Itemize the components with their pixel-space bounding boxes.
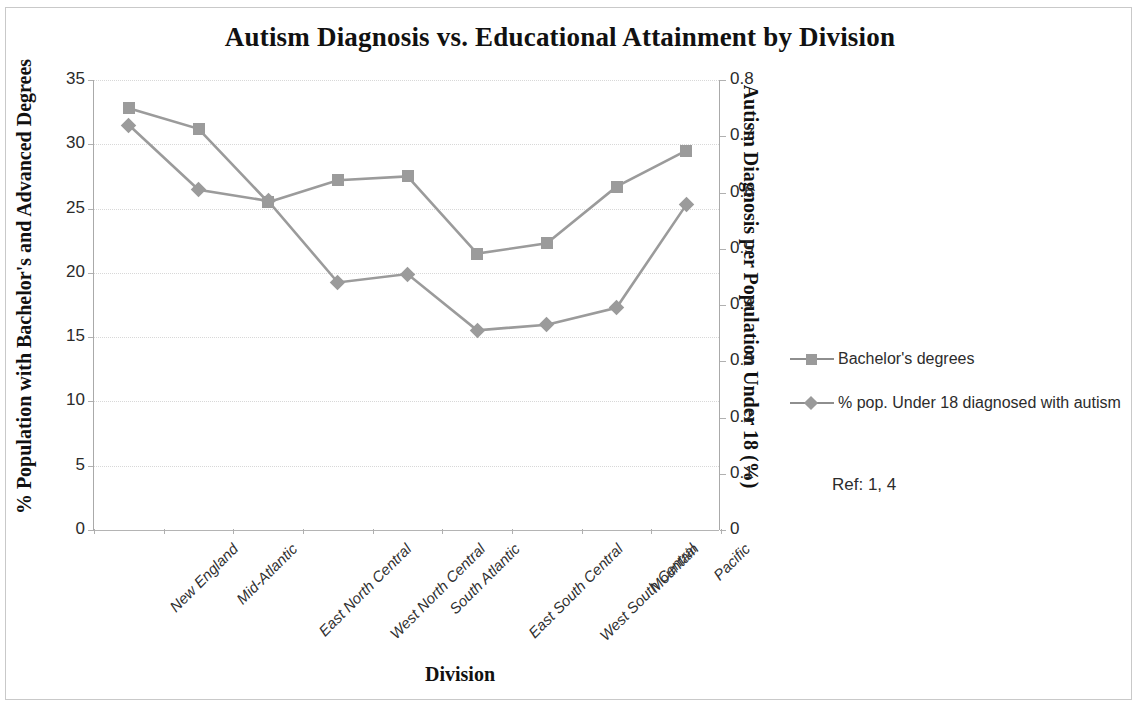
reference-note: Ref: 1, 4 — [832, 475, 896, 495]
x-axis-tick — [721, 529, 722, 534]
left-axis-tick-label: 5 — [35, 455, 85, 475]
data-point-square — [611, 181, 623, 193]
gridline — [94, 530, 719, 531]
legend-item-bachelors[interactable]: Bachelor's degrees — [790, 350, 1135, 368]
data-point-square — [332, 174, 344, 186]
left-axis-tick-label: 15 — [35, 326, 85, 346]
right-axis-tick-label: 0.8 — [730, 69, 786, 89]
series-line-1 — [129, 125, 686, 330]
legend-label-autism: % pop. Under 18 diagnosed with autism — [838, 394, 1121, 412]
data-point-square — [193, 123, 205, 135]
left-axis-tick-label: 30 — [35, 133, 85, 153]
data-point-square — [123, 102, 135, 114]
data-point-square — [402, 170, 414, 182]
right-axis-tick-label: 0.4 — [730, 294, 786, 314]
left-axis-tick-label: 20 — [35, 262, 85, 282]
right-axis-tick-label: 0 — [730, 519, 786, 539]
diamond-marker-icon — [790, 396, 834, 410]
data-point-square — [471, 248, 483, 260]
left-axis-tick-label: 25 — [35, 198, 85, 218]
plot-area — [93, 80, 720, 530]
legend-label-bachelors: Bachelor's degrees — [838, 350, 974, 368]
left-axis-tick-label: 10 — [35, 390, 85, 410]
left-axis-title: % Population with Bachelor's and Advance… — [13, 0, 36, 597]
right-axis-tick-label: 0.7 — [730, 125, 786, 145]
right-axis-tick-label: 0.5 — [730, 238, 786, 258]
right-axis-tick-label: 0.1 — [730, 463, 786, 483]
chart-title: Autism Diagnosis vs. Educational Attainm… — [130, 22, 990, 64]
data-point-square — [680, 145, 692, 157]
data-point-square — [541, 237, 553, 249]
square-marker-icon — [790, 352, 834, 366]
left-axis-tick-label: 35 — [35, 69, 85, 89]
left-axis-tick-label: 0 — [35, 519, 85, 539]
chart-legend: Bachelor's degrees % pop. Under 18 diagn… — [790, 350, 1135, 438]
series-lines — [94, 80, 721, 530]
legend-item-autism[interactable]: % pop. Under 18 diagnosed with autism — [790, 394, 1135, 412]
right-axis-tick-label: 0.2 — [730, 407, 786, 427]
right-axis-tick-label: 0.6 — [730, 182, 786, 202]
x-axis-title: Division — [320, 663, 600, 686]
right-axis-tick-label: 0.3 — [730, 350, 786, 370]
